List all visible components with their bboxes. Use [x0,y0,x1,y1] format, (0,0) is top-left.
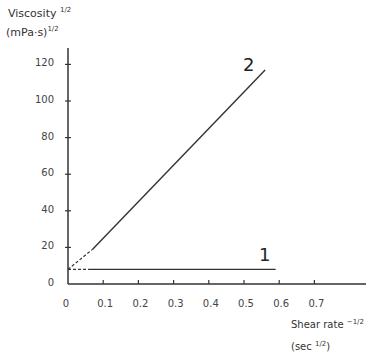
x-axis-label-text: Shear rate [291,319,344,330]
x-tick-label: 0.5 [231,298,261,309]
x-tick-label: 0 [51,298,81,309]
series-label-2: 2 [243,54,254,75]
x-axis-label-exponent: −1/2 [347,318,364,326]
y-tick-label: 120 [24,57,54,68]
y-tick-label: 100 [24,94,54,105]
series-lines [68,70,276,269]
x-tick-label: 0.6 [266,298,296,309]
x-axis-unit: (sec 1/2) [291,340,330,352]
y-axis-label: Viscosity 1/2 [8,6,71,20]
y-axis-label-text: Viscosity [8,7,56,20]
x-axis-label: Shear rate −1/2 [291,318,364,330]
y-axis-unit-exponent: 1/2 [47,25,58,33]
x-tick-label: 0.7 [301,298,331,309]
x-axis-unit-close: ) [326,341,330,352]
y-tick-label: 80 [24,131,54,142]
x-tick-label: 0.3 [161,298,191,309]
series-2-extrapolation [68,249,93,269]
y-axis-label-exponent: 1/2 [60,6,71,14]
y-tick-label: 20 [24,240,54,251]
y-tick-label: 60 [24,167,54,178]
series-label-1: 1 [259,244,270,265]
y-tick-label: 0 [24,277,54,288]
x-tick-label: 0.4 [196,298,226,309]
series-2-line [93,70,265,249]
y-axis-unit: (mPa·s)1/2 [6,25,59,39]
x-tick-label: 0.1 [90,298,120,309]
y-axis-unit-text: (mPa·s) [6,26,47,39]
x-axis-unit-text: (sec [291,341,312,352]
x-tick-label: 0.2 [125,298,155,309]
x-axis-unit-exponent: 1/2 [315,340,326,348]
y-tick-label: 40 [24,204,54,215]
